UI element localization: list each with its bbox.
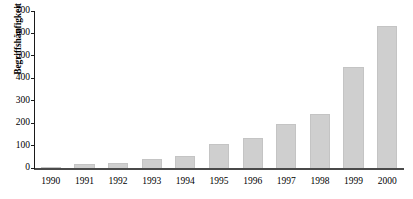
bar-slot: [108, 11, 128, 168]
y-tick-label: 100: [16, 139, 30, 152]
x-tick-label: 1997: [269, 174, 303, 188]
bar[interactable]: [142, 159, 162, 168]
y-tick-label: 300: [16, 94, 30, 107]
y-tick-label: 400: [16, 71, 30, 84]
bar-slot: [142, 11, 162, 168]
x-tick-label: 1995: [202, 174, 236, 188]
bar[interactable]: [343, 67, 363, 168]
bar-chart: Begriffshäufigkeit 010020030040050060070…: [0, 0, 413, 199]
bar[interactable]: [310, 114, 330, 168]
x-tick-label: 1993: [135, 174, 169, 188]
bar-slot: [310, 11, 330, 168]
bar[interactable]: [209, 144, 229, 168]
bar-series: [34, 11, 404, 168]
y-tick-label: 500: [16, 49, 30, 62]
x-tick-label: 1991: [68, 174, 102, 188]
bar-slot: [41, 11, 61, 168]
bar[interactable]: [377, 26, 397, 168]
y-tick-label: 0: [25, 161, 30, 174]
y-tick-label: 700: [16, 4, 30, 17]
bar-slot: [243, 11, 263, 168]
bar[interactable]: [243, 138, 263, 168]
x-axis-labels: 1990199119921993199419951996199719981999…: [34, 174, 404, 190]
bar[interactable]: [74, 164, 94, 168]
bar[interactable]: [108, 163, 128, 168]
x-tick-label: 1999: [337, 174, 371, 188]
x-tick-label: 1996: [236, 174, 270, 188]
bar-slot: [343, 11, 363, 168]
y-tick-label: 600: [16, 26, 30, 39]
bar-slot: [175, 11, 195, 168]
bar-slot: [74, 11, 94, 168]
bar-slot: [377, 11, 397, 168]
x-axis-line: [34, 168, 404, 170]
bar-slot: [209, 11, 229, 168]
bar[interactable]: [175, 156, 195, 168]
bar[interactable]: [276, 124, 296, 168]
x-tick-label: 1998: [303, 174, 337, 188]
x-tick-label: 1994: [169, 174, 203, 188]
bar-slot: [276, 11, 296, 168]
bar[interactable]: [41, 167, 61, 169]
x-tick-label: 2000: [370, 174, 404, 188]
y-tick-label: 200: [16, 116, 30, 129]
x-tick-label: 1992: [101, 174, 135, 188]
x-tick-label: 1990: [34, 174, 68, 188]
